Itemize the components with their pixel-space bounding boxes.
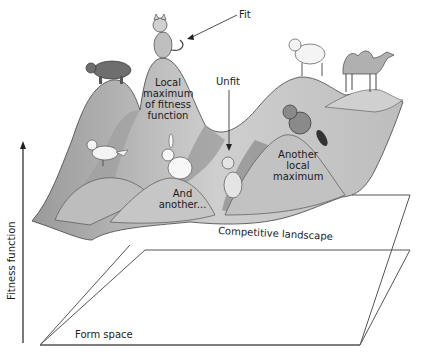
unfit-label: Unfit — [216, 76, 240, 87]
fit-pointer-line — [190, 15, 237, 38]
landscape-svg — [0, 0, 426, 359]
and-another-label: And another... — [155, 188, 210, 210]
camel-icon — [343, 51, 394, 92]
pig-icon — [86, 61, 131, 84]
fitness-function-axis-label: Fitness function — [6, 210, 17, 300]
sheep-icon — [289, 39, 325, 76]
fit-label: Fit — [239, 9, 251, 20]
y-axis-arrowhead-icon — [20, 141, 26, 149]
local-max-label: Local maximum of fitness function — [143, 77, 193, 121]
another-local-max-label: Another local maximum — [273, 149, 323, 182]
form-space-label: Form space — [75, 329, 133, 340]
fitness-landscape-diagram: Fit Unfit Local maximum of fitness funct… — [0, 0, 426, 359]
cat-fit-icon — [153, 14, 183, 58]
fit-arrowhead-icon — [187, 34, 194, 40]
